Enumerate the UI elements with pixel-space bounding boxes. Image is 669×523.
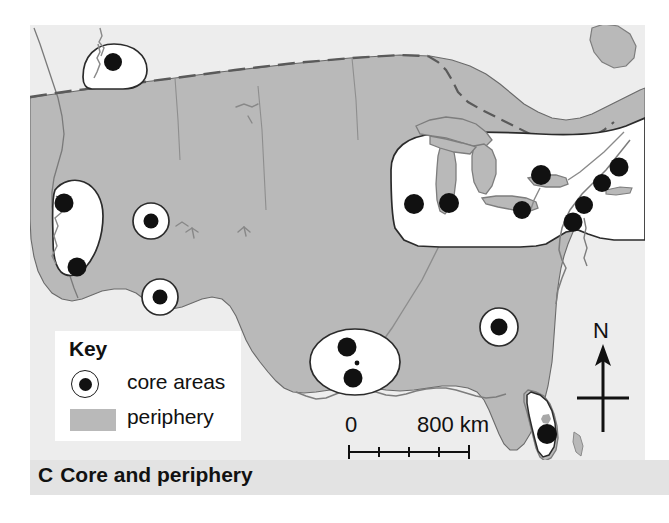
- figure-caption: CCore and periphery: [38, 463, 253, 487]
- north-label: N: [593, 318, 609, 344]
- core-areas-symbol-icon: [71, 370, 99, 398]
- north-arrow-graphic: [575, 342, 635, 434]
- scale-min-label: 0: [345, 412, 357, 438]
- north-arrow: N: [575, 318, 635, 433]
- city-dot-boston: [610, 158, 629, 177]
- city-dot-dallas: [338, 338, 357, 357]
- key-title: Key: [69, 337, 107, 361]
- periphery-swatch-icon: [70, 409, 116, 431]
- city-dot-austin: [355, 361, 360, 366]
- key-label-core-areas: core areas: [127, 370, 225, 394]
- city-dot-los-angeles: [68, 258, 87, 277]
- city-dot-cincinnati: [564, 213, 583, 232]
- caption-letter: C: [38, 463, 53, 486]
- caption-text: Core and periphery: [60, 463, 253, 486]
- city-dot-phoenix: [153, 290, 168, 305]
- city-dot-detroit: [531, 165, 551, 185]
- city-dot-san-francisco: [55, 194, 74, 213]
- figure-core-and-periphery: Key core areas periphery 0 800 km N: [0, 0, 669, 523]
- city-dot-houston: [344, 369, 363, 388]
- city-dot-pittsburgh: [575, 196, 593, 214]
- city-dot-new-york: [593, 174, 611, 192]
- scale-bar: 0 800 km: [345, 412, 505, 464]
- lake-huron: [472, 144, 496, 194]
- city-dot-miami: [537, 424, 557, 444]
- city-dot-milwaukee: [404, 194, 424, 214]
- city-dot-atlanta: [491, 319, 508, 336]
- map-key: Key core areas periphery: [55, 331, 241, 441]
- city-dot-cleveland: [513, 201, 531, 219]
- city-dot-chicago: [439, 193, 459, 213]
- city-dot-seattle: [104, 53, 122, 71]
- city-dot-denver: [144, 214, 159, 229]
- scale-max-label: 800 km: [417, 412, 489, 438]
- key-label-periphery: periphery: [127, 405, 214, 429]
